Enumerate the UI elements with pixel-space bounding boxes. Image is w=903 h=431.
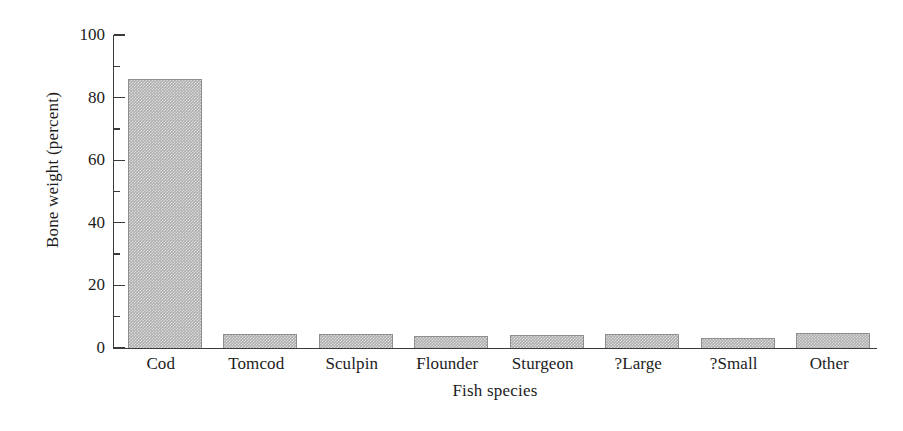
x-axis-category-label: ?Small [686, 352, 782, 376]
x-axis-category-label: Cod [113, 352, 209, 376]
bar [319, 334, 393, 348]
bar [223, 334, 297, 348]
y-axis-tick-label: 60 [47, 151, 105, 168]
bar [414, 336, 488, 348]
y-axis-tick-label: 20 [47, 276, 105, 293]
bar [701, 338, 775, 348]
bar-chart-figure: Bone weight (percent) 020406080100 CodTo… [0, 0, 903, 431]
plot-area: 020406080100 [113, 35, 877, 348]
x-axis-category-label: Flounder [400, 352, 496, 376]
x-axis-category-label: Sculpin [304, 352, 400, 376]
bar [128, 79, 202, 348]
bars-layer [113, 35, 877, 348]
x-axis-category-label: Other [782, 352, 878, 376]
bar [510, 335, 584, 348]
y-axis-tick-label: 80 [47, 89, 105, 106]
x-axis-category-label: Tomcod [209, 352, 305, 376]
x-axis-line [113, 348, 877, 349]
y-axis-tick-labels: 020406080100 [47, 35, 105, 348]
bar [605, 334, 679, 348]
x-axis-title: Fish species [113, 381, 877, 401]
y-axis-tick-label: 100 [47, 26, 105, 43]
bar [796, 333, 870, 348]
x-axis-tick-labels: CodTomcodSculpinFlounderSturgeon?Large?S… [113, 352, 877, 378]
y-axis-tick-label: 0 [47, 339, 105, 356]
y-axis-tick-label: 40 [47, 214, 105, 231]
x-axis-category-label: ?Large [591, 352, 687, 376]
x-axis-category-label: Sturgeon [495, 352, 591, 376]
